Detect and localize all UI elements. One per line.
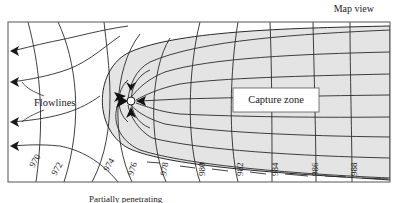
capture-zone-label: Capture zone: [248, 94, 304, 105]
contour-label-988: 988: [349, 162, 359, 176]
flowlines-leader: [22, 82, 44, 96]
contour-label-980: 980: [197, 162, 207, 176]
contour-label-972: 972: [49, 160, 64, 177]
contour-label-982: 982: [235, 163, 245, 177]
contour-label-986: 986: [310, 162, 320, 176]
arrow-left-icon: [10, 117, 19, 127]
arrow-left-icon: [10, 77, 19, 87]
diagram-caption: Partially penetrating: [89, 194, 162, 203]
contour-label-976: 976: [125, 160, 139, 176]
well-icon: [127, 97, 135, 105]
contour-label-984: 984: [270, 162, 280, 176]
flowlines-label: Flowlines: [34, 97, 75, 108]
contour-label-970: 970: [27, 152, 43, 169]
flow-arrows: [10, 46, 19, 151]
arrow-left-icon: [10, 46, 19, 56]
capture-zone-diagram: Flowlines Capture zone 970 972 974 976 9…: [0, 0, 398, 203]
contour-label-974: 974: [101, 156, 117, 173]
flowline: [12, 26, 128, 51]
